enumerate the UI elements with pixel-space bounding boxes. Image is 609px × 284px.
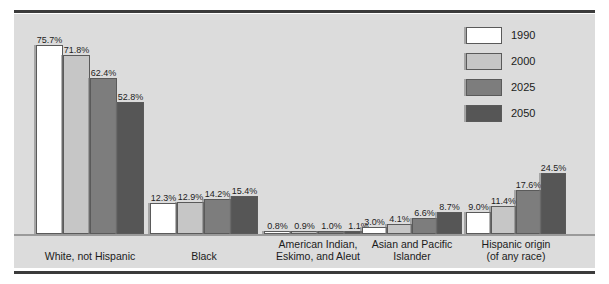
- legend-item[interactable]: 2025: [466, 76, 535, 98]
- legend-swatch: [466, 27, 502, 44]
- legend-label: 2050: [511, 107, 535, 119]
- bar-slot: 71.8%: [63, 34, 90, 234]
- bar-slot: 15.4%: [231, 34, 258, 234]
- bar-slot: 1.0%: [318, 34, 345, 234]
- bar-slot: 4.1%: [387, 34, 412, 234]
- legend-label: 2025: [511, 81, 535, 93]
- bar[interactable]: 0.9%: [291, 231, 318, 234]
- bar-slot: 52.8%: [117, 34, 144, 234]
- bar-value-label: 24.5%: [541, 163, 567, 173]
- bar-value-label: 11.4%: [491, 196, 516, 206]
- bar[interactable]: 52.8%: [117, 102, 144, 234]
- bar-value-label: 6.6%: [414, 208, 435, 218]
- bar[interactable]: 8.7%: [437, 212, 462, 234]
- bar[interactable]: 14.2%: [204, 199, 231, 235]
- legend-swatch: [466, 79, 502, 96]
- bar-group-bars: 0.8%0.9%1.0%1.1%: [264, 34, 372, 234]
- bar-value-label: 1.0%: [321, 221, 342, 231]
- bar[interactable]: 1.0%: [318, 231, 345, 234]
- legend-label: 2000: [511, 55, 535, 67]
- bar-slot: 8.7%: [437, 34, 462, 234]
- bar-slot: 0.9%: [291, 34, 318, 234]
- bar-value-label: 15.4%: [232, 186, 258, 196]
- legend: 1990200020252050: [466, 24, 535, 128]
- bar[interactable]: 6.6%: [412, 218, 437, 235]
- legend-item[interactable]: 1990: [466, 24, 535, 46]
- bar-value-label: 52.8%: [118, 92, 144, 102]
- bar-value-label: 0.9%: [294, 221, 315, 231]
- legend-swatch: [466, 53, 502, 70]
- legend-swatch: [466, 105, 502, 122]
- bar-value-label: 12.9%: [178, 192, 204, 202]
- bar[interactable]: 75.7%: [36, 45, 63, 234]
- bar-value-label: 17.6%: [516, 180, 542, 190]
- bar-slot: 14.2%: [204, 34, 231, 234]
- bar-group: 0.8%0.9%1.0%1.1%American Indian, Eskimo,…: [264, 14, 372, 268]
- bar-slot: 62.4%: [90, 34, 117, 234]
- bar-value-label: 71.8%: [64, 45, 90, 55]
- bar[interactable]: 15.4%: [231, 196, 258, 235]
- legend-label: 1990: [511, 29, 535, 41]
- bar-group-bars: 75.7%71.8%62.4%52.8%: [36, 34, 144, 234]
- bar-slot: 0.8%: [264, 34, 291, 234]
- bar[interactable]: 9.0%: [466, 212, 491, 235]
- bar-value-label: 9.0%: [468, 202, 489, 212]
- bar-value-label: 14.2%: [205, 189, 231, 199]
- bar-chart: 75.7%71.8%62.4%52.8%White, not Hispanic1…: [0, 0, 609, 284]
- bar-group: 12.3%12.9%14.2%15.4%Black: [150, 14, 258, 268]
- bar-slot: 12.9%: [177, 34, 204, 234]
- bar-group: 3.0%4.1%6.6%8.7%Asian and Pacific Island…: [362, 14, 462, 268]
- top-rule: [14, 10, 595, 13]
- bar-value-label: 62.4%: [91, 68, 117, 78]
- bar-group-bars: 3.0%4.1%6.6%8.7%: [362, 34, 462, 234]
- legend-item[interactable]: 2000: [466, 50, 535, 72]
- bar-slot: 75.7%: [36, 34, 63, 234]
- bar[interactable]: 12.3%: [150, 203, 177, 234]
- bar-value-label: 12.3%: [151, 193, 177, 203]
- bar[interactable]: 4.1%: [387, 224, 412, 234]
- bar-value-label: 8.7%: [439, 202, 460, 212]
- bar-slot: 6.6%: [412, 34, 437, 234]
- bar[interactable]: 12.9%: [177, 202, 204, 234]
- bar-group: 75.7%71.8%62.4%52.8%White, not Hispanic: [36, 14, 144, 268]
- bar-value-label: 75.7%: [37, 35, 63, 45]
- bar-group-bars: 12.3%12.9%14.2%15.4%: [150, 34, 258, 234]
- category-label: Hispanic origin (of any race): [441, 238, 591, 262]
- bar-slot: 12.3%: [150, 34, 177, 234]
- bar[interactable]: 62.4%: [90, 78, 117, 234]
- bar[interactable]: 17.6%: [516, 190, 541, 234]
- bar-value-label: 0.8%: [267, 221, 288, 231]
- bar-slot: 24.5%: [541, 34, 566, 234]
- bar[interactable]: 71.8%: [63, 55, 90, 235]
- bar-value-label: 4.1%: [389, 214, 410, 224]
- bar-value-label: 3.0%: [364, 217, 385, 227]
- legend-item[interactable]: 2050: [466, 102, 535, 124]
- bar[interactable]: 3.0%: [362, 227, 387, 235]
- bar-slot: 3.0%: [362, 34, 387, 234]
- bar[interactable]: 11.4%: [491, 206, 516, 235]
- bottom-rule: [14, 271, 595, 274]
- bar[interactable]: 0.8%: [264, 231, 291, 234]
- bar[interactable]: 24.5%: [541, 173, 566, 234]
